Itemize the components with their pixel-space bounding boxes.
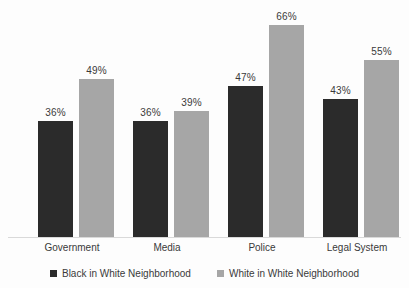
bar-police-white[interactable]: [269, 25, 304, 237]
legend-swatch-icon: [50, 270, 57, 277]
legend-swatch-icon: [217, 270, 224, 277]
bar-wrap-police-series-0[interactable]: 47%: [228, 0, 263, 237]
bar-police-black[interactable]: [228, 86, 263, 237]
bar-wrap-government-series-1[interactable]: 49%: [79, 0, 114, 237]
bar-wrap-police-series-1[interactable]: 66%: [269, 0, 304, 237]
bar-wrap-legal-system-series-1[interactable]: 55%: [364, 0, 399, 237]
bar-chart: 36% 49% 36% 39% 47%: [0, 0, 409, 288]
bar-group-government: 36% 49%: [26, 0, 118, 237]
bar-value-label: 47%: [222, 72, 269, 83]
legend-item-white-in-white-neighborhood[interactable]: White in White Neighborhood: [217, 268, 359, 279]
bar-legal-system-white[interactable]: [364, 60, 399, 237]
bar-group-media: 36% 39%: [121, 0, 213, 237]
category-label-media: Media: [121, 242, 213, 253]
category-label-government: Government: [26, 242, 118, 253]
bar-wrap-media-series-0[interactable]: 36%: [133, 0, 168, 237]
bar-value-label: 39%: [168, 97, 215, 108]
bar-media-black[interactable]: [133, 121, 168, 237]
chart-legend: Black in White Neighborhood White in Whi…: [0, 264, 409, 282]
category-label-police: Police: [216, 242, 308, 253]
bar-wrap-government-series-0[interactable]: 36%: [38, 0, 73, 237]
bar-value-label: 66%: [263, 11, 310, 22]
bar-value-label: 36%: [127, 107, 174, 118]
legend-label: Black in White Neighborhood: [62, 268, 191, 279]
legend-item-black-in-white-neighborhood[interactable]: Black in White Neighborhood: [50, 268, 191, 279]
bar-legal-system-black[interactable]: [323, 99, 358, 237]
bar-group-police: 47% 66%: [216, 0, 308, 237]
bar-wrap-legal-system-series-0[interactable]: 43%: [323, 0, 358, 237]
bar-value-label: 49%: [73, 65, 120, 76]
x-axis-baseline: [8, 237, 401, 238]
legend-label: White in White Neighborhood: [229, 268, 359, 279]
bar-group-legal-system: 43% 55%: [311, 0, 403, 237]
category-label-legal-system: Legal System: [311, 242, 403, 253]
bar-government-black[interactable]: [38, 121, 73, 237]
category-axis: Government Media Police Legal System: [0, 240, 409, 260]
bar-government-white[interactable]: [79, 79, 114, 237]
bar-value-label: 36%: [32, 107, 79, 118]
bar-value-label: 55%: [358, 46, 405, 57]
bar-media-white[interactable]: [174, 111, 209, 237]
plot-area: 36% 49% 36% 39% 47%: [0, 0, 409, 238]
bar-wrap-media-series-1[interactable]: 39%: [174, 0, 209, 237]
bar-value-label: 43%: [317, 85, 364, 96]
